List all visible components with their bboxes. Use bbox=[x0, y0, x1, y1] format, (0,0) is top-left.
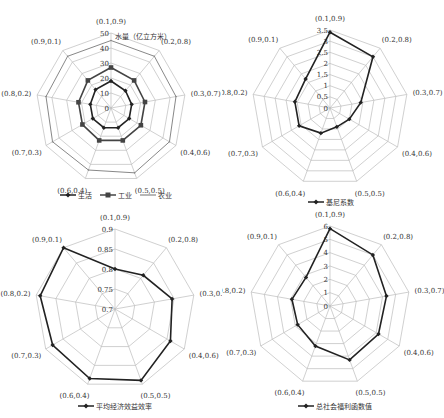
data-point bbox=[139, 123, 144, 128]
legend-item: 平均经济效益效率 bbox=[78, 401, 152, 411]
spoke bbox=[115, 295, 194, 309]
radar-chart: 00.511.522.533.5(0.1,0.9)(0.2,0.8)(0.3,0… bbox=[222, 0, 444, 209]
category-label: (0.8,0.2) bbox=[0, 290, 30, 298]
category-label: (0.1,0.9) bbox=[96, 18, 126, 26]
tick-label: 1 bbox=[324, 289, 328, 297]
radar-chart: 0.70.750.80.850.9(0.1,0.9)(0.2,0.8)(0.3,… bbox=[0, 209, 222, 418]
tick-label: 3 bbox=[324, 263, 328, 271]
legend-item: 生活 bbox=[60, 190, 92, 200]
spoke bbox=[115, 248, 166, 309]
data-point bbox=[319, 131, 323, 135]
category-label: (0.4,0.6) bbox=[189, 352, 219, 360]
category-label: (0.6,0.4) bbox=[275, 389, 305, 397]
legend-item: 农业 bbox=[140, 190, 172, 200]
category-label: (0.3,0.7) bbox=[415, 287, 444, 295]
spoke bbox=[111, 95, 185, 108]
tick-label: 2 bbox=[324, 276, 328, 284]
tick-label: 4 bbox=[324, 249, 329, 257]
category-label: (0.9,0.1) bbox=[247, 233, 277, 241]
category-label: (0.2,0.8) bbox=[383, 233, 413, 241]
category-label: (0.9,0.1) bbox=[31, 38, 61, 46]
tick-label: 0.75 bbox=[97, 286, 113, 294]
data-point bbox=[109, 65, 114, 70]
legend-item: 总社会福利函数值 bbox=[298, 401, 372, 411]
category-label: (0.7,0.3) bbox=[226, 349, 256, 357]
tick-label: 6 bbox=[324, 223, 329, 231]
spoke bbox=[111, 108, 137, 178]
data-point bbox=[120, 138, 125, 143]
legend: 平均经济效益效率 bbox=[78, 401, 157, 411]
category-label: (0.4,0.6) bbox=[402, 150, 432, 158]
radar-chart: 01020304050(0.1,0.9)(0.2,0.8)(0.3,0.7)(0… bbox=[0, 0, 222, 209]
legend-item: 工业 bbox=[100, 190, 132, 200]
spoke bbox=[85, 108, 111, 178]
spoke bbox=[115, 309, 184, 349]
tick-label: 20 bbox=[100, 75, 109, 83]
category-label: (0.5,0.5) bbox=[355, 389, 385, 397]
category-label: (0.4,0.6) bbox=[404, 349, 434, 357]
tick-label: 30 bbox=[100, 60, 109, 68]
legend: 基尼系数 bbox=[308, 197, 359, 207]
tick-label: 0 bbox=[324, 303, 328, 311]
data-point bbox=[67, 55, 69, 57]
category-label: (0.1,0.9) bbox=[100, 214, 130, 222]
category-label: (0.5,0.5) bbox=[355, 190, 385, 198]
category-label: (0.8,0.2) bbox=[222, 287, 246, 295]
category-label: (0.9,0.1) bbox=[248, 36, 278, 44]
category-label: (0.7,0.3) bbox=[12, 149, 42, 157]
category-label: (0.8,0.2) bbox=[222, 89, 248, 97]
spoke bbox=[330, 108, 357, 181]
tick-label: 1.5 bbox=[317, 71, 328, 79]
tick-label: 0.5 bbox=[317, 93, 328, 101]
data-point bbox=[154, 55, 156, 57]
category-label: (0.7,0.3) bbox=[11, 352, 41, 360]
category-label: (0.8,0.2) bbox=[1, 90, 31, 98]
radar-social-welfare: 0123456(0.1,0.9)(0.2,0.8)(0.3,0.7)(0.4,0… bbox=[222, 209, 444, 418]
data-point bbox=[86, 78, 91, 83]
data-point bbox=[143, 100, 148, 105]
data-point bbox=[175, 96, 177, 98]
data-point bbox=[132, 78, 137, 83]
tick-label: 0 bbox=[324, 105, 328, 113]
tick-label: 0.9 bbox=[102, 226, 113, 234]
category-label: (0.4,0.6) bbox=[180, 149, 210, 157]
data-point bbox=[88, 102, 92, 106]
spoke bbox=[330, 108, 398, 147]
radar-water-volume: 01020304050(0.1,0.9)(0.2,0.8)(0.3,0.7)(0… bbox=[0, 0, 222, 209]
tick-label: 40 bbox=[100, 45, 109, 53]
unit-label: 水量（亿立方米） bbox=[115, 32, 171, 41]
legend: 生活 工业 农业 bbox=[60, 190, 177, 200]
data-point bbox=[134, 172, 136, 174]
category-label: (0.7,0.3) bbox=[228, 150, 258, 158]
tick-label: 0.7 bbox=[102, 306, 113, 314]
category-label: (0.1,0.9) bbox=[315, 15, 345, 23]
spoke bbox=[330, 292, 409, 306]
category-label: (0.9,0.1) bbox=[32, 236, 62, 244]
data-point bbox=[45, 96, 47, 98]
category-label: (0.2,0.8) bbox=[382, 36, 412, 44]
category-label: (0.6,0.4) bbox=[275, 190, 305, 198]
spoke bbox=[64, 248, 115, 309]
tick-label: 2 bbox=[324, 60, 328, 68]
legend-item: 基尼系数 bbox=[308, 197, 354, 207]
tick-label: 10 bbox=[100, 90, 109, 98]
tick-label: 3.5 bbox=[317, 27, 328, 35]
category-label: (0.6,0.4) bbox=[60, 392, 90, 400]
category-label: (0.3,0.7) bbox=[191, 90, 221, 98]
category-label: (0.5,0.5) bbox=[140, 392, 170, 400]
category-label: (0.3,0.7) bbox=[413, 89, 443, 97]
category-label: (0.2,0.8) bbox=[168, 236, 198, 244]
radar-economic-efficiency: 0.70.750.80.850.9(0.1,0.9)(0.2,0.8)(0.3,… bbox=[0, 209, 222, 418]
spoke bbox=[330, 306, 399, 346]
data-point bbox=[169, 141, 171, 143]
data-point bbox=[113, 267, 117, 271]
data-point bbox=[52, 141, 54, 143]
category-label: (0.1,0.9) bbox=[315, 211, 345, 219]
tick-label: 1 bbox=[324, 82, 328, 90]
spoke bbox=[46, 309, 115, 349]
tick-label: 0 bbox=[105, 105, 109, 113]
radar-chart: 0123456(0.1,0.9)(0.2,0.8)(0.3,0.7)(0.4,0… bbox=[222, 209, 444, 418]
data-point bbox=[88, 169, 90, 171]
radar-gini: 00.511.522.533.5(0.1,0.9)(0.2,0.8)(0.3,0… bbox=[222, 0, 444, 209]
data-point bbox=[76, 100, 81, 105]
